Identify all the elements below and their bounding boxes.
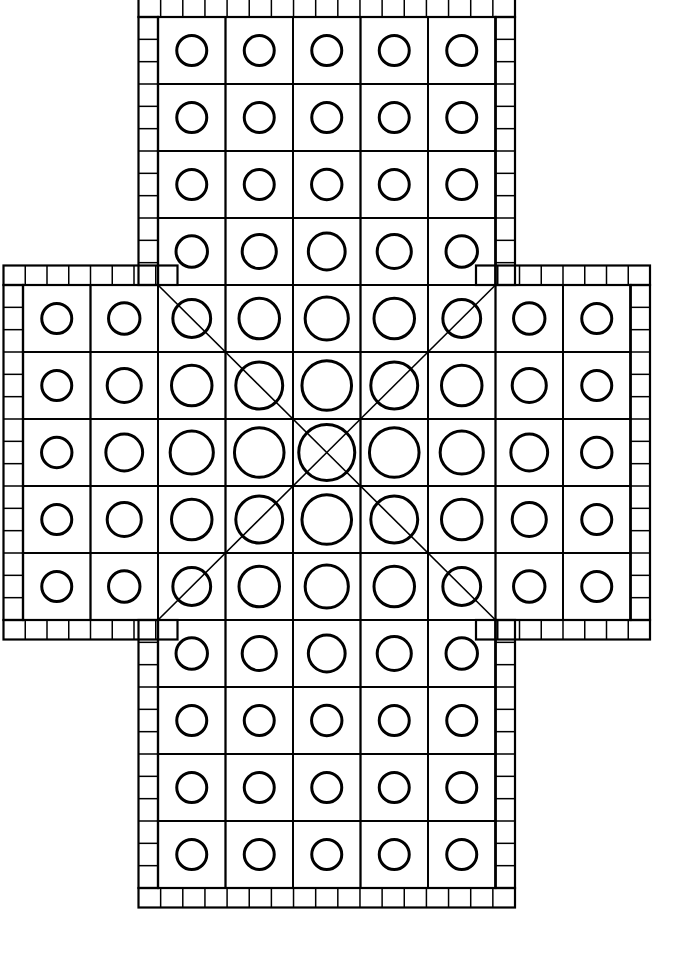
- background-rect: [0, 0, 677, 969]
- board-canvas: [0, 0, 677, 969]
- cross-board-diagram: [0, 0, 677, 969]
